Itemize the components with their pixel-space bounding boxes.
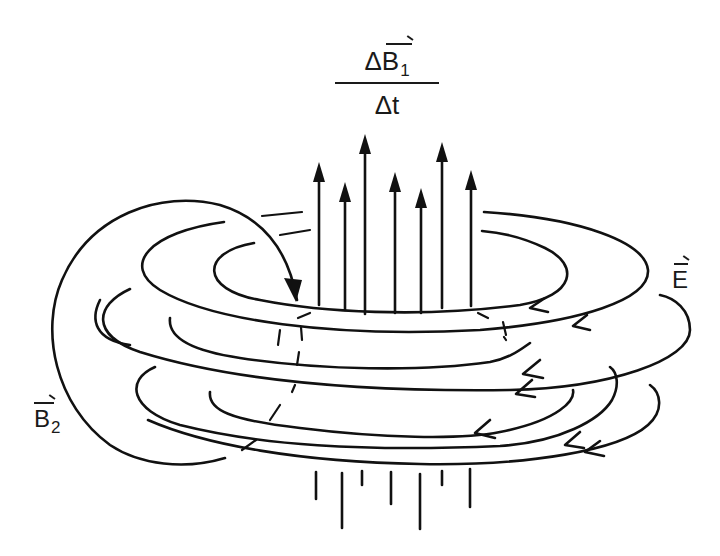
vector-arrow-icon — [674, 263, 688, 265]
electric-field-label: E — [672, 268, 688, 292]
fraction-numerator: ΔB1 — [364, 48, 409, 74]
vector-arrow-icon — [386, 43, 412, 45]
vector-arrow-icon — [34, 402, 54, 404]
e-symbol: E — [672, 266, 688, 293]
electric-field-loop-1 — [214, 231, 567, 312]
electric-field-loop-4 — [136, 367, 616, 448]
delta-t-symbol: Δt — [335, 92, 439, 118]
b-symbol: B — [34, 405, 50, 432]
delta-b-symbol: ΔB — [364, 46, 399, 76]
b-subscript: 2 — [51, 418, 60, 437]
delta-b-subscript: 1 — [400, 61, 409, 80]
fraction-bar — [335, 82, 439, 84]
lower-field-line-stubs — [316, 469, 470, 529]
rate-of-change-label: ΔB1 Δt — [335, 48, 439, 118]
induced-field-label: B2 — [34, 407, 60, 431]
upward-field-arrows — [313, 134, 477, 314]
